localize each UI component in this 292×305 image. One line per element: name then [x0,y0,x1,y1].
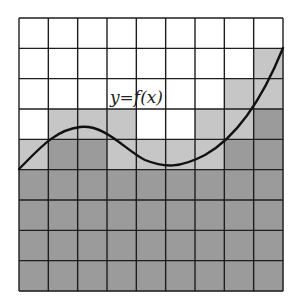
grid-cell [224,200,254,231]
grid-cell [19,18,49,49]
grid-cell [254,48,284,79]
grid-cell [48,139,78,170]
grid-cell [224,230,254,261]
grid-cell [136,109,166,140]
grid-cell [48,230,78,261]
grid-cell [48,48,78,79]
grid-cell [107,109,137,140]
grid-cell [224,261,254,292]
grid-cell [78,170,108,201]
grid-cell [48,109,78,140]
grid-cell [195,109,225,140]
grid-cell [107,230,137,261]
grid-cell [48,200,78,231]
grid-cell [254,79,284,110]
grid-cell [254,109,284,140]
grid-cell [136,200,166,231]
grid-cell [136,230,166,261]
grid-cell [166,109,196,140]
grid-cell [166,18,196,49]
grid-cell [166,230,196,261]
grid-cell [166,48,196,79]
grid-cell [224,139,254,170]
grid-cell [136,18,166,49]
grid-cell [19,200,49,231]
grid-cell [195,48,225,79]
grid-cell [78,230,108,261]
grid-cell [107,170,137,201]
grid-cell [48,170,78,201]
grid-cell [48,79,78,110]
grid-cell [78,79,108,110]
grid-cell [19,48,49,79]
riemann-grid-diagram: y=f(x) [0,0,292,305]
grid-cell [136,48,166,79]
grid-cell [107,261,137,292]
grid-cell [166,170,196,201]
grid-cell [195,261,225,292]
grid-cell [78,261,108,292]
grid-cell [254,230,284,261]
grid-cell [254,261,284,292]
grid-cell [195,18,225,49]
grid-cell [107,18,137,49]
grid-cell [166,200,196,231]
grid-cell [19,261,49,292]
grid-cell [19,170,49,201]
grid-cell [254,139,284,170]
grid-cell [48,18,78,49]
grid-cell [254,18,284,49]
grid-cell [78,139,108,170]
grid-cell [224,170,254,201]
grid-cell [136,261,166,292]
grid-cell [254,170,284,201]
grid-cell [78,109,108,140]
grid-cell [78,48,108,79]
grid-cell [224,79,254,110]
grid-cell [19,230,49,261]
grid-cell [107,200,137,231]
grid-cell [19,109,49,140]
grid-cell [224,48,254,79]
grid-cell [107,48,137,79]
grid-cell [19,79,49,110]
grid-cell [166,79,196,110]
grid-cell [78,18,108,49]
grid-cell [254,200,284,231]
function-label: y=f(x) [109,87,163,107]
grid-cell [224,18,254,49]
grid-cell [166,261,196,292]
grid-cell [136,170,166,201]
grid-cell [195,200,225,231]
grid-cell [78,200,108,231]
grid-cell [48,261,78,292]
grid-cells [19,18,284,292]
grid-cell [195,230,225,261]
grid-cell [195,79,225,110]
grid-cell [195,170,225,201]
